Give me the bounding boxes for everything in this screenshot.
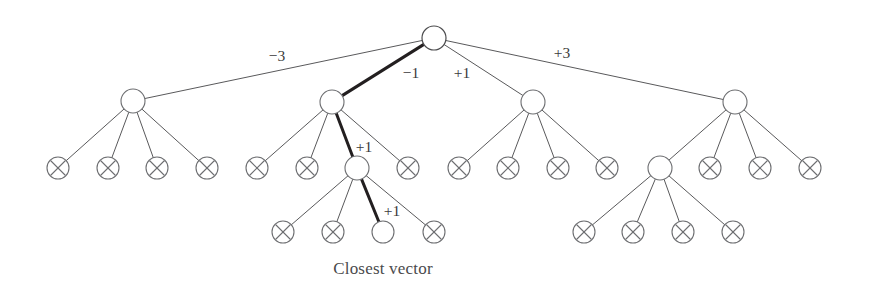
tree-leaf-node: [47, 157, 69, 179]
tree-leaf-node: [272, 221, 294, 243]
tree-leaf-node: [146, 157, 168, 179]
tree-leaf-node: [672, 221, 694, 243]
node-circle: [320, 90, 344, 114]
tree-leaf-node: [622, 221, 644, 243]
tree-leaf-node: [397, 157, 419, 179]
node-circle: [648, 156, 672, 180]
label-minus-1: −1: [403, 64, 420, 81]
tree-leaf-node: [322, 221, 344, 243]
node-circle: [121, 89, 145, 113]
tree-leaf-node: [246, 157, 268, 179]
tree-internal-node: [121, 89, 145, 113]
label-plus-1-root: +1: [454, 64, 471, 81]
label-minus-3: −3: [269, 47, 286, 64]
closest-vector-node: [372, 221, 394, 243]
tree-leaf-node: [547, 157, 569, 179]
tree-internal-node: [320, 90, 344, 114]
node-circle: [422, 26, 446, 50]
node-circle: [723, 90, 747, 114]
tree-diagram-figure: −3−1+1+3+1+1 Closest vector: [0, 0, 873, 303]
tree-internal-node: [521, 90, 545, 114]
node-circle: [345, 156, 369, 180]
tree-leaf-node: [97, 157, 119, 179]
node-circle: [372, 221, 394, 243]
tree-leaf-node: [799, 157, 821, 179]
closest-vector-caption: Closest vector: [333, 259, 433, 278]
node-circle: [521, 90, 545, 114]
tree-leaf-node: [448, 157, 470, 179]
tree-leaf-node: [497, 157, 519, 179]
tree-leaf-node: [749, 157, 771, 179]
tree-leaf-node: [699, 157, 721, 179]
tree-captions-layer: Closest vector: [333, 259, 433, 278]
tree-internal-node: [648, 156, 672, 180]
label-plus-1-mid: +1: [356, 138, 373, 155]
label-plus-3: +3: [554, 44, 571, 61]
tree-leaf-node: [722, 221, 744, 243]
tree-internal-node: [422, 26, 446, 50]
tree-internal-node: [723, 90, 747, 114]
tree-leaf-node: [296, 157, 318, 179]
tree-diagram-canvas: −3−1+1+3+1+1 Closest vector: [0, 0, 873, 303]
label-plus-1-low: +1: [384, 202, 401, 219]
tree-internal-node: [345, 156, 369, 180]
tree-leaf-node: [423, 221, 445, 243]
tree-leaf-node: [573, 221, 595, 243]
tree-leaf-node: [596, 157, 618, 179]
tree-leaf-node: [196, 157, 218, 179]
